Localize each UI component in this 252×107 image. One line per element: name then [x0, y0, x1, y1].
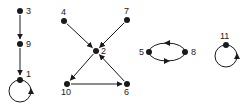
node-dot [146, 49, 152, 55]
node-label: 1 [26, 69, 31, 79]
node-dot [17, 77, 23, 83]
edge-2-to-10 [70, 54, 93, 80]
edge-8-to-5 [149, 43, 185, 52]
node-label: 9 [26, 39, 31, 49]
node-4: 4 [61, 7, 67, 24]
edge-1-to-1 [9, 80, 31, 102]
edge-7-to-2 [100, 23, 125, 48]
node-label: 3 [26, 6, 31, 16]
node-label: 4 [61, 7, 66, 17]
node-label: 7 [124, 6, 129, 16]
graph-canvas: 3914721065811 [0, 0, 252, 107]
node-6: 6 [124, 81, 130, 97]
node-dot [223, 42, 229, 48]
node-2: 2 [93, 46, 106, 56]
edge-5-to-8 [149, 52, 185, 61]
node-dot [93, 48, 99, 54]
node-10: 10 [61, 81, 71, 97]
node-label: 10 [61, 87, 71, 97]
node-label: 11 [220, 31, 229, 41]
edges-layer [9, 15, 237, 102]
node-dot [124, 17, 130, 23]
edge-11-to-11 [215, 45, 237, 67]
node-label: 8 [191, 47, 196, 57]
edge-4-to-2 [67, 24, 92, 48]
node-dot [17, 41, 23, 47]
node-label: 6 [124, 87, 129, 97]
edge-6-to-2 [99, 55, 124, 81]
node-9: 9 [17, 39, 31, 49]
node-7: 7 [124, 6, 130, 23]
node-dot [61, 18, 67, 24]
nodes-layer: 3914721065811 [17, 6, 229, 97]
node-3: 3 [17, 6, 31, 16]
node-label: 5 [139, 47, 144, 57]
node-dot [182, 49, 188, 55]
node-dot [17, 8, 23, 14]
node-label: 2 [101, 46, 106, 56]
directed-graph: 3914721065811 [0, 0, 252, 107]
